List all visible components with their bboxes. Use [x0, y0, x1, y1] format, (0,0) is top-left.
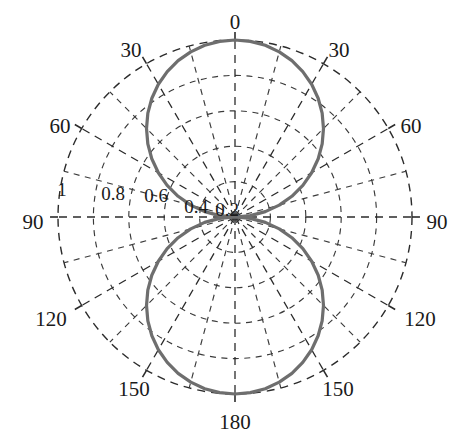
- angle-30-left-label: 30: [121, 38, 142, 62]
- angle-90-left-label: 90: [23, 210, 44, 234]
- angle-30-right-label: 30: [329, 38, 350, 62]
- angle-60-left-label: 60: [50, 114, 71, 138]
- radius-1-label: 1: [57, 179, 67, 200]
- polar-chart-canvas: 0303060609090120120150150180 10.80.60.40…: [0, 0, 458, 439]
- radius-0.4-label: 0.4: [184, 196, 208, 217]
- angle-180-label: 180: [219, 410, 251, 434]
- angular-gridline-210: [147, 217, 236, 370]
- angle-120-left-label: 120: [35, 307, 67, 331]
- angle-60-right-label: 60: [401, 114, 422, 138]
- angular-gridline-165: [235, 217, 281, 388]
- tickmark-330: [143, 57, 147, 64]
- angular-gridline-15: [235, 46, 281, 217]
- angle-90-right-label: 90: [427, 210, 448, 234]
- radius-0.2-label: 0.2: [215, 199, 239, 220]
- angular-gridline-75: [235, 171, 406, 217]
- radius-0.8-label: 0.8: [101, 183, 125, 204]
- angular-gridline-315: [110, 92, 235, 217]
- tickmark-120: [388, 306, 395, 310]
- radius-0.6-label: 0.6: [144, 185, 168, 206]
- angular-gridline-45: [235, 92, 360, 217]
- angular-gridline-135: [235, 217, 360, 342]
- angular-gridline-225: [110, 217, 235, 342]
- angle-0-label: 0: [230, 10, 241, 34]
- angle-150-right-label: 150: [322, 377, 354, 401]
- tickmark-240: [75, 306, 82, 310]
- tickmark-30: [324, 57, 328, 64]
- angle-150-left-label: 150: [118, 377, 150, 401]
- tickmark-60: [388, 125, 395, 129]
- tickmark-300: [75, 125, 82, 129]
- angular-gridline-105: [235, 217, 406, 263]
- angular-gridline-195: [189, 217, 235, 388]
- angular-gridline-30: [235, 64, 324, 217]
- angular-gridline-345: [189, 46, 235, 217]
- angular-gridline-255: [64, 217, 235, 263]
- angle-120-right-label: 120: [404, 307, 436, 331]
- angular-gridline-150: [235, 217, 324, 370]
- polar-plot-figure: 0303060609090120120150150180 10.80.60.40…: [0, 0, 458, 439]
